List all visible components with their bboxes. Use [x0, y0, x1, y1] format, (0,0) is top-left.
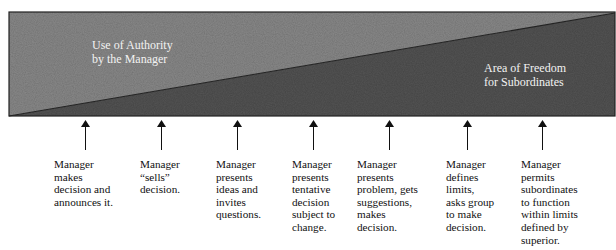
behavior-label-3: Manager presents ideas and invites quest…: [216, 158, 261, 221]
arrow-up-icon: [538, 120, 547, 150]
arrow-up-icon: [233, 120, 242, 150]
behavior-label-2: Manager “sells” decision.: [140, 158, 180, 196]
freedom-label: Area of Freedom for Subordinates: [484, 61, 566, 89]
behavior-label-5: Manager presents problem, gets suggestio…: [357, 158, 418, 234]
arrow-up-icon: [157, 120, 166, 150]
arrow-up-icon: [81, 120, 90, 150]
behavior-label-4: Manager presents tentative decision subj…: [292, 158, 335, 234]
arrow-up-icon: [385, 120, 394, 150]
behavior-label-6: Manager defines limits, asks group to ma…: [446, 158, 494, 234]
authority-label: Use of Authority by the Manager: [92, 38, 173, 66]
arrow-up-icon: [309, 120, 318, 150]
behavior-label-7: Manager permits subordinates to function…: [521, 158, 578, 246]
leadership-continuum-diagram: Use of Authority by the Manager Area of …: [0, 0, 616, 250]
arrow-up-icon: [463, 120, 472, 150]
behavior-label-1: Manager makes decision and announces it.: [54, 158, 113, 208]
